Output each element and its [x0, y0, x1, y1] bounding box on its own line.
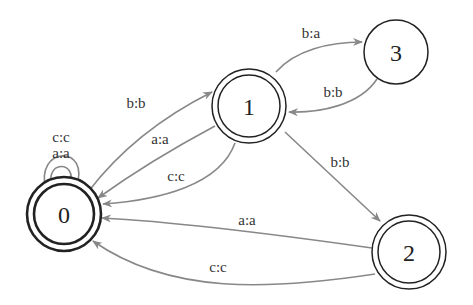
edge-label: a:a	[151, 131, 169, 147]
node-0: 0	[27, 177, 101, 251]
edge-2-0-cc	[93, 241, 375, 285]
edge-label: a:a	[238, 212, 256, 228]
fst-diagram: a:a c:c b:b a:a c:c b:a b:b b:b a:a c:c …	[0, 0, 473, 305]
edge-1-3-ba	[276, 42, 362, 72]
edge-2-0-aa	[102, 218, 372, 248]
edge-label: c:c	[167, 168, 185, 184]
edge-0-1-bb	[88, 92, 212, 192]
edge-label: b:b	[330, 154, 349, 170]
node-label: 2	[403, 240, 415, 266]
edge-label: c:c	[209, 259, 227, 275]
node-2: 2	[372, 215, 446, 289]
edge-label: b:b	[323, 84, 342, 100]
node-label: 3	[390, 40, 402, 66]
edge-label: a:a	[52, 145, 70, 161]
edge-label: b:a	[302, 25, 321, 41]
edge-label: b:b	[126, 95, 145, 111]
node-label: 1	[243, 94, 255, 120]
node-1: 1	[212, 69, 286, 143]
node-3: 3	[364, 20, 428, 84]
edge-1-2-bb	[285, 132, 380, 221]
edge-label: c:c	[52, 129, 70, 145]
node-label: 0	[58, 202, 70, 228]
